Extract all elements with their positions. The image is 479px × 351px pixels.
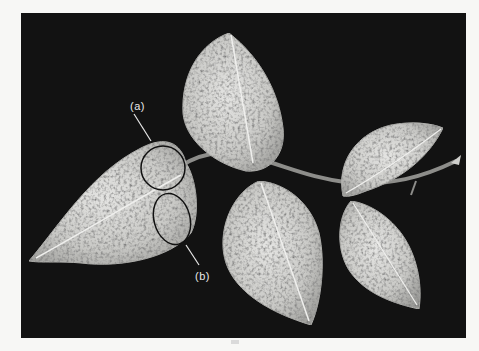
annotation-a-pointer	[134, 114, 151, 141]
leaflet-bottom-right	[340, 201, 420, 309]
stem-thorn	[411, 181, 416, 195]
annotation-b-label: (b)	[195, 270, 210, 282]
annotation-a-label: (a)	[130, 100, 145, 112]
scan-artifact	[231, 340, 239, 344]
leaflet-top-right	[342, 123, 443, 196]
leaflet-bottom-center	[223, 181, 322, 325]
annotation-b-pointer	[186, 245, 199, 265]
leaf-illustration	[21, 13, 466, 338]
leaflet-top-center	[183, 33, 284, 171]
leaf-photograph: (a) (b)	[21, 13, 466, 338]
leaflet-large-left	[29, 142, 196, 265]
